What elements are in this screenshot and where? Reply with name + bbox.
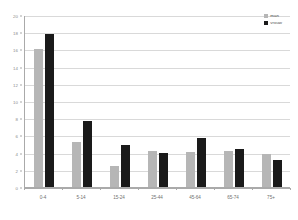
- y-tick-mark: [20, 33, 22, 34]
- y-tick-mark: [20, 84, 22, 85]
- y-tick-label: 0: [16, 186, 18, 191]
- y-tick-mark: [20, 136, 22, 137]
- x-tick-mark: [252, 188, 253, 190]
- y-tick-mark: [20, 119, 22, 120]
- x-tick-label: 5-14: [76, 195, 85, 201]
- bar-group: [63, 16, 101, 187]
- x-tick-mark: [138, 188, 139, 190]
- y-tick-mark: [20, 153, 22, 154]
- bar-vrouw-25-44: [159, 153, 169, 187]
- bar-man-45-64: [186, 152, 196, 187]
- legend-label: vrouw: [270, 20, 282, 25]
- bar-man-65-74: [224, 151, 234, 187]
- y-tick-label: 18: [13, 31, 18, 36]
- x-axis: 0-45-1415-2425-4445-6465-7475+: [24, 188, 290, 212]
- legend-label: man: [270, 13, 279, 18]
- x-tick-mark: [24, 188, 25, 190]
- bar-vrouw-75+: [273, 160, 283, 187]
- bar-vrouw-5-14: [83, 121, 93, 187]
- bar-vrouw-0-4: [45, 34, 55, 187]
- y-tick-mark: [20, 50, 22, 51]
- x-tick-mark: [290, 188, 291, 190]
- y-tick-label: 20: [13, 14, 18, 19]
- y-tick-mark: [20, 16, 22, 17]
- x-tick-label: 45-64: [189, 195, 201, 201]
- y-tick-label: 14: [13, 65, 18, 70]
- y-tick-label: 12: [13, 82, 18, 87]
- bar-man-25-44: [148, 151, 158, 187]
- x-tick-label: 15-24: [113, 195, 125, 201]
- legend-swatch-vrouw-icon: [264, 21, 268, 25]
- x-tick-mark: [62, 188, 63, 190]
- bar-vrouw-45-64: [197, 138, 207, 187]
- legend-item-man[interactable]: man: [264, 13, 282, 18]
- y-tick-mark: [20, 170, 22, 171]
- bar-group: [215, 16, 253, 187]
- y-tick-label: 6: [16, 134, 18, 139]
- bar-vrouw-15-24: [121, 145, 131, 187]
- y-tick-mark: [20, 102, 22, 103]
- y-tick-mark: [20, 188, 22, 189]
- y-axis: 02468101214161820: [0, 16, 22, 188]
- bar-group: [139, 16, 177, 187]
- bar-man-15-24: [110, 166, 120, 188]
- bar-vrouw-65-74: [235, 149, 245, 187]
- legend-swatch-man-icon: [264, 14, 268, 18]
- y-tick-label: 4: [16, 151, 18, 156]
- x-tick-mark: [214, 188, 215, 190]
- y-tick-label: 2: [16, 168, 18, 173]
- y-tick-label: 10: [13, 100, 18, 105]
- bar-group: [25, 16, 63, 187]
- bar-group: [177, 16, 215, 187]
- x-tick-label: 25-44: [151, 195, 163, 201]
- bar-group: [101, 16, 139, 187]
- bar-group: [253, 16, 291, 187]
- x-tick-label: 0-4: [40, 195, 47, 201]
- bar-man-75+: [262, 154, 272, 187]
- bar-chart: 02468101214161820 0-45-1415-2425-4445-64…: [0, 0, 298, 220]
- y-tick-mark: [20, 67, 22, 68]
- bar-man-5-14: [72, 142, 82, 187]
- y-tick-label: 16: [13, 48, 18, 53]
- bars-layer: [25, 16, 290, 187]
- plot-area: [24, 16, 290, 188]
- x-tick-mark: [176, 188, 177, 190]
- legend-item-vrouw[interactable]: vrouw: [264, 20, 282, 25]
- bar-man-0-4: [34, 49, 44, 187]
- x-tick-label: 75+: [267, 195, 275, 201]
- x-tick-mark: [100, 188, 101, 190]
- chart-legend: manvrouw: [264, 13, 282, 25]
- x-tick-label: 65-74: [227, 195, 239, 201]
- y-tick-label: 8: [16, 117, 18, 122]
